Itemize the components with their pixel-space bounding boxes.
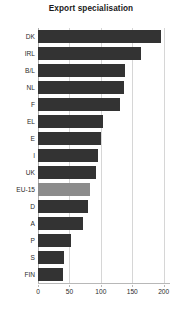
category-label-s: S <box>31 254 35 261</box>
bar-e <box>38 132 101 146</box>
x-axis-tick-labels: 050100150200 <box>38 285 170 299</box>
bar-s <box>38 251 64 265</box>
x-tick-label-0: 0 <box>36 288 40 295</box>
bar-row: NL <box>38 81 170 95</box>
bar-series: DKIRLB/LNLFELEIUKEU-15DAPSFIN <box>38 28 170 283</box>
plot-area: DKIRLB/LNLFELEIUKEU-15DAPSFIN <box>38 28 170 283</box>
bar-i <box>38 149 98 163</box>
category-label-a: A <box>31 220 35 227</box>
category-label-eu-15: EU-15 <box>16 186 35 193</box>
bar-d <box>38 200 88 214</box>
category-label-el: EL <box>27 118 35 125</box>
bar-row: P <box>38 234 170 248</box>
bar-row: A <box>38 217 170 231</box>
bar-row: E <box>38 132 170 146</box>
bar-el <box>38 115 103 129</box>
category-label-fin: FIN <box>24 271 35 278</box>
category-label-dk: DK <box>26 33 35 40</box>
bar-row: I <box>38 149 170 163</box>
x-tick-mark-150 <box>132 285 133 287</box>
category-label-b-l: B/L <box>25 67 35 74</box>
bar-uk <box>38 166 96 180</box>
bar-eu-15 <box>38 183 90 197</box>
bar-row: FIN <box>38 268 170 282</box>
bar-fin <box>38 268 63 282</box>
bar-irl <box>38 47 141 61</box>
bar-row: DK <box>38 30 170 44</box>
x-tick-mark-50 <box>69 285 70 287</box>
category-label-uk: UK <box>26 169 35 176</box>
x-tick-mark-0 <box>38 285 39 287</box>
bar-row: B/L <box>38 64 170 78</box>
chart-container: Export specialisation DKIRLB/LNLFELEIUKE… <box>0 0 182 309</box>
category-label-p: P <box>31 237 35 244</box>
bar-row: F <box>38 98 170 112</box>
bar-a <box>38 217 83 231</box>
category-label-d: D <box>30 203 35 210</box>
bar-row: EL <box>38 115 170 129</box>
x-tick-label-150: 150 <box>127 288 138 295</box>
x-tick-label-200: 200 <box>158 288 169 295</box>
category-label-e: E <box>31 135 35 142</box>
category-label-nl: NL <box>27 84 35 91</box>
bar-row: EU-15 <box>38 183 170 197</box>
category-label-irl: IRL <box>25 50 35 57</box>
bar-f <box>38 98 120 112</box>
bar-row: D <box>38 200 170 214</box>
category-label-i: I <box>33 152 35 159</box>
x-tick-label-50: 50 <box>66 288 73 295</box>
x-tick-label-100: 100 <box>95 288 106 295</box>
bar-row: S <box>38 251 170 265</box>
bar-dk <box>38 30 161 44</box>
bar-row: IRL <box>38 47 170 61</box>
bar-p <box>38 234 71 248</box>
x-tick-mark-200 <box>164 285 165 287</box>
x-tick-mark-100 <box>101 285 102 287</box>
category-label-f: F <box>31 101 35 108</box>
bar-b-l <box>38 64 125 78</box>
x-axis-line <box>38 283 170 284</box>
bar-row: UK <box>38 166 170 180</box>
chart-title: Export specialisation <box>0 4 182 13</box>
bar-nl <box>38 81 124 95</box>
